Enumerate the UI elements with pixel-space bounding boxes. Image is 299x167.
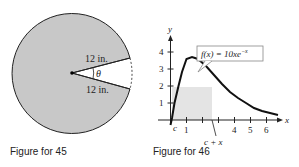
- x-tick-label: 6: [264, 125, 269, 135]
- y-axis-label: y: [167, 24, 172, 34]
- x-axis-label: x: [284, 115, 289, 125]
- y-tick-label: 1: [159, 98, 164, 108]
- lower-radius-label: 12 in.: [86, 84, 109, 95]
- angle-arc: [93, 68, 94, 79]
- y-tick-label: 4: [159, 47, 164, 57]
- figure-46-caption: Figure for 46: [153, 146, 210, 157]
- angle-label: θ: [96, 68, 101, 79]
- c-label: c: [173, 123, 177, 133]
- missing-sector-arc: [130, 58, 132, 89]
- y-tick-label: 2: [159, 81, 164, 91]
- c-plus-x-leader: [212, 120, 216, 136]
- y-axis-arrow-icon: [168, 35, 173, 41]
- x-tick-label: 4: [232, 125, 237, 135]
- function-graph: 1 4 5 6 1 2 3 4 x y c c + x f(x) = 10xe−…: [150, 0, 299, 167]
- figure-45-caption: Figure for 45: [10, 146, 67, 157]
- x-axis-arrow-icon: [277, 118, 283, 123]
- function-label: f(x) = 10xe−x: [201, 48, 248, 59]
- figure-46: 1 4 5 6 1 2 3 4 x y c c + x f(x) = 10xe−…: [150, 0, 299, 167]
- upper-radius-label: 12 in.: [85, 53, 108, 64]
- x-tick-label: 1: [184, 125, 189, 135]
- x-tick-label: 5: [248, 125, 253, 135]
- center-point: [70, 71, 74, 75]
- circle-sector-diagram: 12 in. θ 12 in.: [0, 0, 150, 167]
- y-tick-label: 3: [159, 64, 164, 74]
- figure-45: 12 in. θ 12 in. Figure for 45: [0, 0, 150, 167]
